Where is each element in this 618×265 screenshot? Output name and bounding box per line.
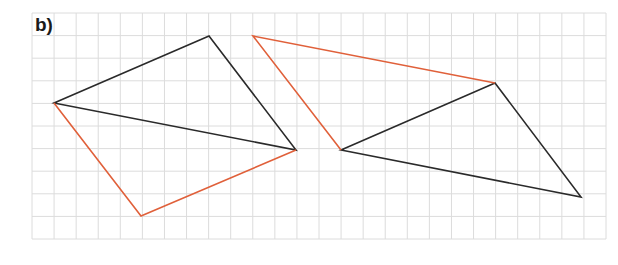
diagram: b) bbox=[0, 0, 618, 265]
left-red-path bbox=[54, 103, 296, 216]
grid-figure bbox=[0, 0, 618, 265]
right-black-triangle bbox=[341, 83, 581, 197]
part-label: b) bbox=[35, 14, 53, 36]
left-black-triangle bbox=[54, 36, 296, 150]
right-red-path bbox=[253, 36, 495, 150]
